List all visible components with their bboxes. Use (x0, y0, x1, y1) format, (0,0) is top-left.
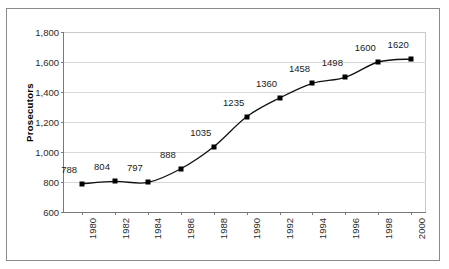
x-tick-mark (378, 212, 379, 215)
x-tick-label: 1986 (185, 218, 196, 239)
y-tick-label: 1,400 (35, 87, 59, 98)
x-tick-label: 1992 (284, 218, 295, 239)
data-point-marker (277, 96, 282, 101)
data-point-label: 888 (160, 149, 176, 160)
data-point-label: 1360 (256, 78, 277, 89)
x-tick-label: 1988 (218, 218, 229, 239)
x-tick-label: 1994 (317, 218, 328, 239)
x-tick-label: 2000 (416, 218, 427, 239)
data-point-label: 1498 (322, 57, 343, 68)
y-tick-label: 600 (43, 207, 59, 218)
y-tick-label: 1,800 (35, 27, 59, 38)
data-point-label: 1458 (289, 63, 310, 74)
data-point-marker (113, 179, 118, 184)
x-tick-mark (280, 212, 281, 215)
x-tick-mark (411, 212, 412, 215)
x-tick-mark (148, 212, 149, 215)
y-axis-title: Prosecutors (24, 58, 35, 168)
y-tick-label: 800 (43, 177, 59, 188)
data-point-marker (178, 166, 183, 171)
x-tick-mark (214, 212, 215, 215)
data-point-label: 1235 (223, 97, 244, 108)
x-tick-mark (247, 212, 248, 215)
plot-area: 6008001,0001,2001,4001,6001,800 19801982… (63, 32, 426, 213)
x-tick-mark (345, 212, 346, 215)
data-point-marker (376, 60, 381, 65)
data-point-label: 1620 (388, 39, 409, 50)
y-tick-mark (61, 212, 64, 213)
y-tick-label: 1,600 (35, 57, 59, 68)
data-point-label: 797 (127, 162, 143, 173)
data-point-label: 1035 (190, 127, 211, 138)
x-tick-label: 1996 (350, 218, 361, 239)
x-tick-label: 1984 (152, 218, 163, 239)
data-point-marker (409, 57, 414, 62)
x-tick-label: 1980 (87, 218, 98, 239)
data-point-label: 1600 (355, 42, 376, 53)
data-point-marker (310, 81, 315, 86)
y-tick-label: 1,200 (35, 117, 59, 128)
x-tick-label: 1990 (251, 218, 262, 239)
y-tick-label: 1,000 (35, 147, 59, 158)
data-point-marker (145, 180, 150, 185)
x-tick-label: 1982 (120, 218, 131, 239)
x-tick-label: 1998 (383, 218, 394, 239)
data-point-marker (343, 75, 348, 80)
x-tick-mark (82, 212, 83, 215)
x-tick-mark (115, 212, 116, 215)
data-point-label: 788 (61, 164, 77, 175)
data-point-label: 804 (94, 161, 110, 172)
data-point-marker (211, 144, 216, 149)
x-tick-mark (312, 212, 313, 215)
chart-frame: Prosecutors 6008001,0001,2001,4001,6001,… (6, 8, 440, 261)
series-line (64, 32, 426, 212)
data-point-marker (244, 114, 249, 119)
x-tick-mark (181, 212, 182, 215)
data-point-marker (80, 181, 85, 186)
